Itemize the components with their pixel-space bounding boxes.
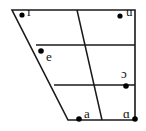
- vowel-label-e: e: [46, 50, 52, 63]
- vowel-dot-e: [38, 48, 44, 54]
- vowel-dot-u: [117, 13, 122, 18]
- vowel-trapezoid-outline: [12, 10, 135, 120]
- vowel-chart: ı u e ɔ a ɑ: [0, 0, 146, 131]
- vowel-dot-a: [76, 116, 82, 122]
- vowel-dot-i: [19, 12, 24, 17]
- vowel-label-open-o: ɔ: [121, 67, 127, 80]
- vowel-label-u: u: [126, 5, 133, 18]
- vowel-label-i: ı: [27, 5, 31, 18]
- vowel-dot-script-a: [132, 116, 138, 122]
- gridline-central: [77, 10, 102, 120]
- vowel-label-script-a: ɑ: [123, 107, 130, 120]
- vowel-dot-open-o: [123, 83, 129, 89]
- vowel-label-a: a: [84, 107, 90, 120]
